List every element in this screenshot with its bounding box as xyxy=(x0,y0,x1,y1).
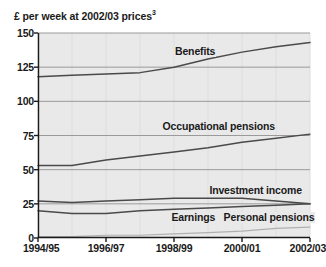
x-tick-label: 1994/95 xyxy=(23,243,60,254)
x-tick-label: 1996/97 xyxy=(88,243,125,254)
y-tick-label: 75 xyxy=(0,131,34,141)
x-tick-label: 2000/01 xyxy=(224,243,261,254)
y-axis-caption-footnote-marker: 3 xyxy=(152,9,156,16)
chart-figure: £ per week at 2002/03 prices3 0255075100… xyxy=(0,0,326,267)
y-tick-label: 100 xyxy=(0,96,34,106)
series-label-occupational-pensions: Occupational pensions xyxy=(162,121,276,132)
plot-canvas xyxy=(38,33,310,238)
y-tick-label: 150 xyxy=(0,28,34,38)
series-label-benefits: Benefits xyxy=(174,46,216,57)
y-axis-caption-text: £ per week at 2002/03 prices xyxy=(14,10,152,22)
x-axis-tick-labels: 1994/951996/971998/992000/012002/03 xyxy=(0,243,326,259)
y-tick-label: 50 xyxy=(0,165,34,175)
plot-area: BenefitsOccupational pensionsInvestment … xyxy=(38,33,310,238)
series-label-personal-pensions: Personal pensions xyxy=(223,212,316,223)
series-label-investment-income: Investment income xyxy=(208,185,303,196)
series-label-earnings: Earnings xyxy=(170,212,216,223)
y-axis-caption: £ per week at 2002/03 prices3 xyxy=(14,7,156,22)
y-tick-label: 25 xyxy=(0,199,34,209)
y-axis-tick-labels: 0255075100125150 xyxy=(0,33,34,238)
y-tick-label: 125 xyxy=(0,62,34,72)
x-tick-label: 1998/99 xyxy=(156,243,193,254)
x-tick-label: 2002/03 xyxy=(290,243,326,254)
